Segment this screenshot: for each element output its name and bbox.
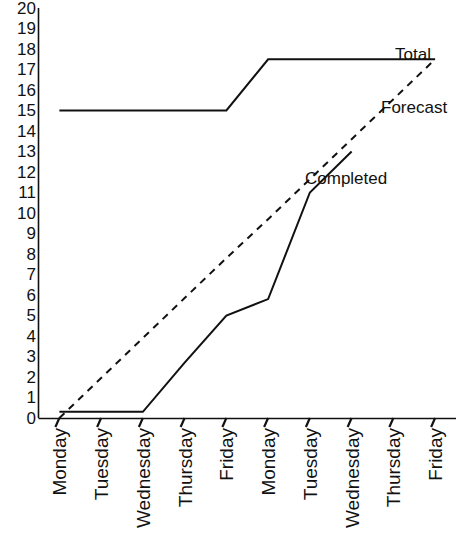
- x-axis-label-8: Thursday: [381, 420, 405, 556]
- x-tick-label: Friday: [426, 428, 445, 481]
- x-tick-label: Thursday: [175, 428, 194, 507]
- burnup-chart: 20191817161514131211109876543210 Total F…: [0, 0, 461, 556]
- x-axis-tick-labels: MondayTuesdayWednesdayThursdayFridayMond…: [0, 420, 461, 556]
- x-axis-label-3: Thursday: [173, 420, 197, 556]
- plot-area: [0, 0, 461, 430]
- x-axis-label-6: Tuesday: [298, 420, 322, 556]
- x-tick-label: Friday: [217, 428, 236, 481]
- series-label-total: Total: [395, 46, 431, 63]
- series-label-completed: Completed: [305, 170, 387, 187]
- x-axis-label-0: Monday: [47, 420, 71, 556]
- x-tick-label: Wednesday: [342, 428, 361, 528]
- x-tick-label: Wednesday: [133, 428, 152, 528]
- x-tick-label: Monday: [259, 428, 278, 496]
- x-tick-label: Tuesday: [92, 428, 111, 500]
- x-axis-label-2: Wednesday: [131, 420, 155, 556]
- x-tick-label: Tuesday: [300, 428, 319, 500]
- x-tick-label: Monday: [50, 428, 69, 496]
- series-label-forecast: Forecast: [381, 99, 447, 116]
- x-axis-label-4: Friday: [214, 420, 238, 556]
- x-axis-label-7: Wednesday: [340, 420, 364, 556]
- axes: [39, 8, 457, 419]
- series-line-total: [59, 59, 435, 110]
- x-axis-label-1: Tuesday: [89, 420, 113, 556]
- x-tick-label: Thursday: [384, 428, 403, 507]
- x-axis-label-5: Monday: [256, 420, 280, 556]
- series-line-completed: [59, 152, 351, 412]
- series-line-forecast: [59, 59, 435, 418]
- x-axis-label-9: Friday: [423, 420, 447, 556]
